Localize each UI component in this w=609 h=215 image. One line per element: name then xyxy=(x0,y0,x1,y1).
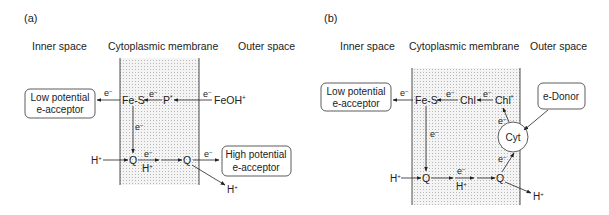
panel-a-fes: Fe-S xyxy=(122,94,145,106)
panel-a-e-label-6: e− xyxy=(204,149,213,159)
panel-a-high-acceptor-line2: e-acceptor xyxy=(232,162,280,173)
panel-a-low-acceptor-line2: e-acceptor xyxy=(36,104,84,115)
panel-b-header-outer: Outer space xyxy=(530,40,587,52)
panel-a-label: (a) xyxy=(24,12,37,24)
panel-b-fes: Fe-S xyxy=(415,94,438,106)
panel-a-header-membrane: Cytoplasmic membrane xyxy=(108,40,218,52)
panel-b-e-label-1: e− xyxy=(400,88,409,98)
panel-b-cyt-label: Cyt xyxy=(506,132,521,143)
panel-b-header-inner: Inner space xyxy=(340,40,395,52)
diagram-canvas: (a) Inner space Cytoplasmic membrane Out… xyxy=(0,0,609,215)
panel-a-h-out: H+ xyxy=(227,184,238,195)
panel-a-high-acceptor-line1: High potential xyxy=(225,149,286,160)
panel-b-arrow-donor-to-cyt xyxy=(524,110,548,130)
panel-a-header-inner: Inner space xyxy=(32,40,87,52)
panel-a-feoh: FeOH+ xyxy=(214,94,246,106)
panel-b-low-acceptor-line2: e-acceptor xyxy=(332,98,380,109)
panel-a-h-left: H+ xyxy=(91,155,102,166)
panel-a-q1: Q xyxy=(129,154,137,166)
panel-a-q2: Q xyxy=(183,154,191,166)
panel-a-header-outer: Outer space xyxy=(238,40,295,52)
panel-b-chl: Chl xyxy=(460,94,476,106)
panel-b-header-membrane: Cytoplasmic membrane xyxy=(409,40,519,52)
panel-b-h-out: H+ xyxy=(533,191,544,202)
panel-b-q2: Q xyxy=(496,172,504,184)
panel-a-e-label-1: e− xyxy=(104,88,113,98)
panel-b-q1: Q xyxy=(422,172,430,184)
panel-b-h-left: H+ xyxy=(390,173,401,184)
panel-a-e-label-3: e− xyxy=(203,89,212,99)
panel-b-donor-label: e-Donor xyxy=(543,91,580,102)
panel-a: (a) Inner space Cytoplasmic membrane Out… xyxy=(24,12,295,195)
panel-b: (b) Inner space Cytoplasmic membrane Out… xyxy=(321,12,587,205)
panel-b-low-acceptor-line1: Low potential xyxy=(327,86,386,97)
panel-a-low-acceptor-line1: Low potential xyxy=(31,92,90,103)
panel-b-label: (b) xyxy=(324,12,337,24)
